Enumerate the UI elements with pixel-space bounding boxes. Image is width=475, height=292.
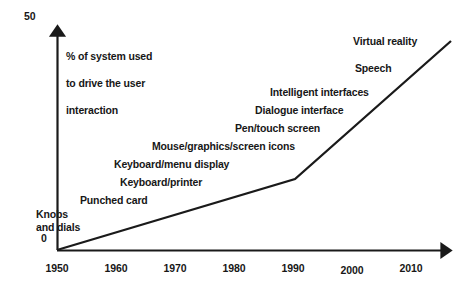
y-axis-zero-label: 0 [41, 232, 47, 244]
x-tick-label-2000: 2000 [341, 264, 364, 276]
x-tick-label-2010: 2010 [400, 262, 423, 274]
y-axis-caption-line-3: interaction [66, 104, 152, 118]
evolution-of-user-interaction-chart: 50 0 % of system used to drive the user … [0, 0, 475, 292]
y-axis-caption-line-2: to drive the user [66, 77, 152, 91]
annotation-speech: Speech [355, 62, 391, 75]
y-axis-caption: % of system used to drive the user inter… [66, 36, 152, 131]
x-tick-label-1950: 1950 [46, 262, 69, 274]
x-tick-label-1980: 1980 [223, 262, 246, 274]
annotation-keyboard-menu-display: Keyboard/menu display [114, 158, 229, 171]
x-tick-label-1970: 1970 [164, 262, 187, 274]
annotation-knobs-line-2: and dials [36, 221, 80, 234]
y-axis-max-label: 50 [24, 10, 36, 22]
annotation-punched-card: Punched card [80, 194, 148, 207]
annotation-keyboard-printer: Keyboard/printer [120, 176, 202, 189]
annotation-dialogue-interface: Dialogue interface [255, 104, 343, 117]
x-tick-label-1990: 1990 [282, 262, 305, 274]
annotation-intelligent-interfaces: Intelligent interfaces [270, 86, 369, 99]
y-axis-caption-line-1: % of system used [66, 50, 152, 64]
annotation-knobs-line-1: Knobs [36, 208, 80, 221]
annotation-pen-touch-screen: Pen/touch screen [235, 122, 320, 135]
x-tick-label-1960: 1960 [105, 262, 128, 274]
annotation-knobs-and-dials: Knobs and dials [36, 208, 80, 233]
annotation-virtual-reality: Virtual reality [353, 35, 417, 48]
annotation-mouse-graphics-screen-icons: Mouse/graphics/screen icons [152, 140, 295, 153]
